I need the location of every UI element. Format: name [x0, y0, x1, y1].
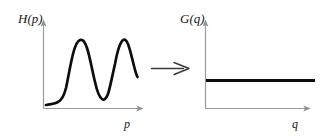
right-y-axis: [203, 20, 209, 109]
right-y-axis-label: G(q): [180, 11, 205, 26]
left-panel: H(p) p: [17, 11, 144, 131]
transform-arrow: [151, 63, 189, 75]
right-x-axis-label: q: [292, 117, 298, 131]
double-peak-curve: [46, 40, 138, 105]
left-x-axis: [44, 106, 144, 112]
right-x-axis: [206, 106, 311, 112]
figure-svg: H(p) p G(q) q: [0, 0, 327, 138]
right-panel: G(q) q: [180, 11, 315, 131]
left-y-axis-label: H(p): [17, 11, 43, 26]
figure-container: H(p) p G(q) q: [0, 0, 327, 138]
left-y-axis: [41, 20, 47, 109]
left-x-axis-label: p: [123, 117, 130, 131]
